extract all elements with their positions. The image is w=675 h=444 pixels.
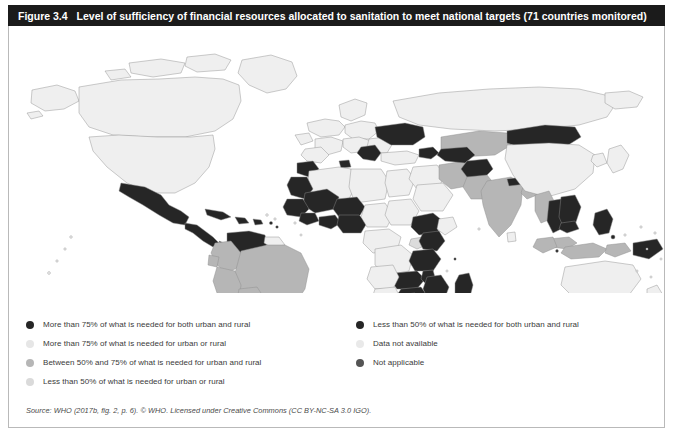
legend-label: More than 75% of what is needed for urba… [43, 339, 226, 348]
legend-item-less50-both: Less than 50% of what is needed for both… [356, 315, 656, 334]
figure-title-bar: Figure 3.4 Level of sufficiency of finan… [8, 5, 665, 26]
legend-swatch-icon [26, 378, 34, 386]
legend-item-more75-either: More than 75% of what is needed for urba… [26, 334, 356, 353]
legend-swatch-icon [26, 321, 34, 329]
legend-label: Less than 50% of what is needed for urba… [43, 377, 225, 386]
legend-label: More than 75% of what is needed for both… [43, 320, 250, 329]
world-map: .c-dark { fill: #262626; } .c-med { fill… [9, 27, 664, 293]
legend-item-no-data: Data not available [356, 334, 656, 353]
legend-column-left: More than 75% of what is needed for both… [26, 315, 356, 391]
world-map-svg: .c-dark { fill: #262626; } .c-med { fill… [9, 27, 664, 293]
legend-column-right: Less than 50% of what is needed for both… [356, 315, 656, 372]
source-note: Source: WHO (2017b, fig. 2, p. 6). © WHO… [26, 406, 371, 415]
figure-title: Level of sufficiency of financial resour… [68, 10, 647, 22]
legend-item-not-applicable: Not applicable [356, 353, 656, 372]
legend-label: Less than 50% of what is needed for both… [373, 320, 579, 329]
figure-container: Figure 3.4 Level of sufficiency of finan… [0, 0, 675, 444]
legend-swatch-icon [26, 340, 34, 348]
legend-item-less50-either: Less than 50% of what is needed for urba… [26, 372, 356, 391]
legend-item-between50-75: Between 50% and 75% of what is needed fo… [26, 353, 356, 372]
legend-swatch-icon [356, 321, 364, 329]
legend-label: Data not available [373, 339, 438, 348]
legend-item-more75-both: More than 75% of what is needed for both… [26, 315, 356, 334]
legend-swatch-icon [356, 340, 364, 348]
map-legend: More than 75% of what is needed for both… [9, 315, 664, 395]
figure-number: Figure 3.4 [8, 10, 68, 22]
legend-label: Not applicable [373, 358, 424, 367]
legend-swatch-icon [26, 359, 34, 367]
legend-swatch-icon [356, 359, 364, 367]
map-divider [9, 293, 664, 294]
legend-label: Between 50% and 75% of what is needed fo… [43, 358, 261, 367]
